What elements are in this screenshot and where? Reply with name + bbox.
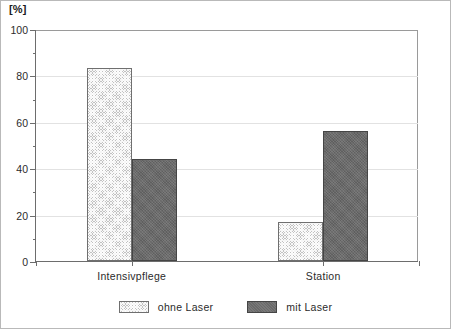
- legend-item-label: mit Laser: [286, 301, 332, 313]
- y-axis-tick: [30, 76, 36, 77]
- x-axis-tick: [132, 261, 133, 266]
- x-axis-category-label: Station: [306, 270, 341, 282]
- dark-solid-swatch: [247, 301, 277, 313]
- bar-chart-figure: [%] 020406080100 IntensivpflegeStation o…: [0, 0, 451, 329]
- y-axis-minor-tick: [33, 53, 36, 54]
- x-axis-edge-tick: [36, 261, 37, 266]
- bar: [278, 222, 323, 261]
- y-axis-minor-tick: [33, 192, 36, 193]
- legend-item: ohne Laser: [119, 301, 214, 313]
- y-axis-tick-label: 100: [10, 24, 28, 36]
- bar: [87, 68, 132, 261]
- plot-area: 020406080100 IntensivpflegeStation: [35, 30, 418, 262]
- legend-item-label: ohne Laser: [158, 301, 214, 313]
- plot-right-border: [417, 30, 418, 261]
- x-axis-edge-tick: [419, 261, 420, 266]
- legend-item: mit Laser: [247, 301, 332, 313]
- y-axis-minor-tick: [33, 146, 36, 147]
- y-axis-minor-tick: [33, 100, 36, 101]
- x-axis-tick: [323, 261, 324, 266]
- y-axis-tick-label: 20: [16, 210, 28, 222]
- x-axis-category-label: Intensivpflege: [97, 270, 166, 282]
- light-crosshatch-swatch: [119, 301, 149, 313]
- plot-top-border: [36, 30, 418, 31]
- y-axis-tick: [30, 216, 36, 217]
- y-axis-minor-tick: [33, 239, 36, 240]
- y-axis-tick-label: 60: [16, 117, 28, 129]
- bar: [132, 159, 177, 261]
- y-axis-tick: [30, 123, 36, 124]
- y-axis-tick-label: 0: [22, 256, 28, 268]
- chart-legend: ohne Lasermit Laser: [1, 301, 450, 313]
- y-axis-tick-label: 40: [16, 163, 28, 175]
- y-axis-unit-label: [%]: [9, 3, 27, 15]
- bar: [323, 131, 368, 261]
- y-axis-tick: [30, 30, 36, 31]
- y-axis-tick-label: 80: [16, 70, 28, 82]
- y-axis-tick: [30, 169, 36, 170]
